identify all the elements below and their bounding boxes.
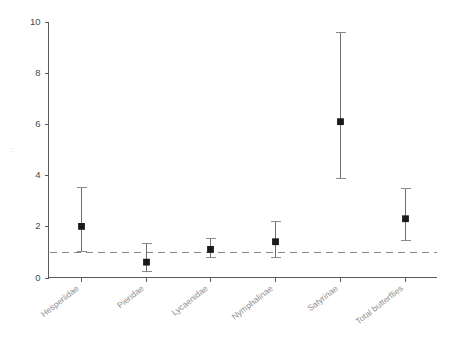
y-tick-label: 0 [35,272,40,283]
y-tick-label: 4 [35,169,40,180]
y-tick-label: 2 [35,220,40,231]
chart-figure: 0246810 HesperiidaePieridaeLycaenidaeNym… [0,0,452,343]
point-marker [272,238,279,245]
point-marker [143,259,150,266]
y-axis-faint-label: :: [10,145,14,154]
point-marker [337,118,344,125]
point-marker [78,223,85,230]
y-tick-label: 8 [35,67,40,78]
point-marker [402,215,409,222]
y-tick-label: 6 [35,118,40,129]
point-marker [207,246,214,253]
y-tick-label: 10 [30,16,41,27]
